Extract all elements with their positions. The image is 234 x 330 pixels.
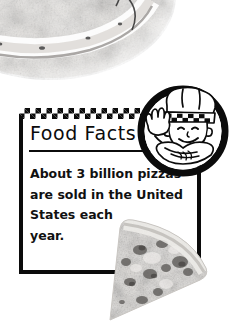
pizza-slice-photo bbox=[96, 206, 214, 324]
page-title: Food Facts bbox=[30, 122, 136, 144]
food-facts-page: Food Facts About 3 billion pizzas are so… bbox=[0, 0, 234, 330]
chef-mascot-icon bbox=[131, 82, 234, 180]
pizza-crust-photo bbox=[0, 0, 206, 88]
fact-line: are sold in the United bbox=[30, 185, 196, 206]
box-left-border bbox=[19, 116, 23, 274]
checkered-band bbox=[19, 108, 143, 119]
